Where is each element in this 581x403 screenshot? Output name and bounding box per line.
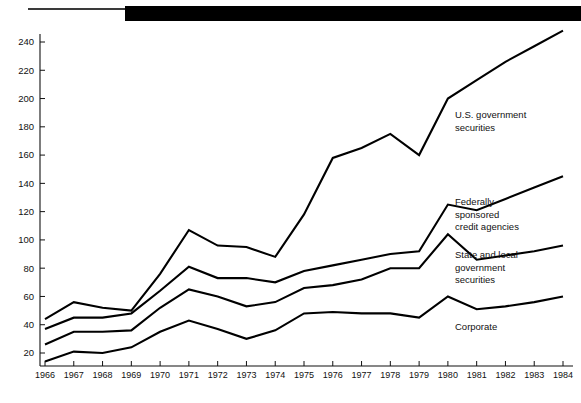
y-tick-label: 140 [18, 178, 34, 189]
x-tick-label: 1976 [323, 370, 343, 380]
y-tick-label: 120 [18, 206, 34, 217]
x-tick-label: 1968 [93, 370, 113, 380]
x-tick-label: 1983 [524, 370, 544, 380]
x-tick-label: 1974 [265, 370, 285, 380]
series-label-2: State and local [455, 249, 518, 260]
x-axis: 1966196719681969197019711972197319741975… [35, 361, 573, 380]
x-tick-label: 1977 [352, 370, 372, 380]
y-tick-label: 20 [23, 347, 34, 358]
x-tick-label: 1966 [35, 370, 55, 380]
x-tick-label: 1969 [121, 370, 141, 380]
series-label-0: securities [455, 122, 495, 133]
x-tick-label: 1972 [208, 370, 228, 380]
y-tick-label: 180 [18, 121, 34, 132]
y-tick-label: 80 [23, 263, 34, 274]
series-labels-group: U.S. governmentsecuritiesFederallysponso… [455, 109, 527, 332]
x-tick-label: 1981 [467, 370, 487, 380]
y-tick-label: 240 [18, 36, 34, 47]
x-tick-label: 1984 [553, 370, 573, 380]
x-tick-label: 1970 [150, 370, 170, 380]
y-tick-label: 200 [18, 93, 34, 104]
y-tick-label: 100 [18, 234, 34, 245]
y-tick-label: 40 [23, 319, 34, 330]
x-tick-label: 1978 [380, 370, 400, 380]
series-label-2: government [455, 262, 506, 273]
series-label-1: sponsored [455, 209, 499, 220]
series-label-2: securities [455, 274, 495, 285]
x-tick-label: 1973 [236, 370, 256, 380]
y-tick-label: 220 [18, 65, 34, 76]
x-tick-label: 1975 [294, 370, 314, 380]
x-tick-label: 1982 [495, 370, 515, 380]
x-tick-label: 1980 [438, 370, 458, 380]
series-label-3: Corporate [455, 321, 497, 332]
x-tick-label: 1967 [64, 370, 84, 380]
series-label-1: Federally [455, 196, 494, 207]
series-label-0: U.S. government [455, 109, 527, 120]
y-tick-label: 60 [23, 291, 34, 302]
series-label-1: credit agencies [455, 221, 519, 232]
y-tick-label: 160 [18, 149, 34, 160]
x-tick-label: 1979 [409, 370, 429, 380]
y-axis: 20406080100120140160180200220240 [18, 34, 45, 366]
x-tick-label: 1971 [179, 370, 199, 380]
